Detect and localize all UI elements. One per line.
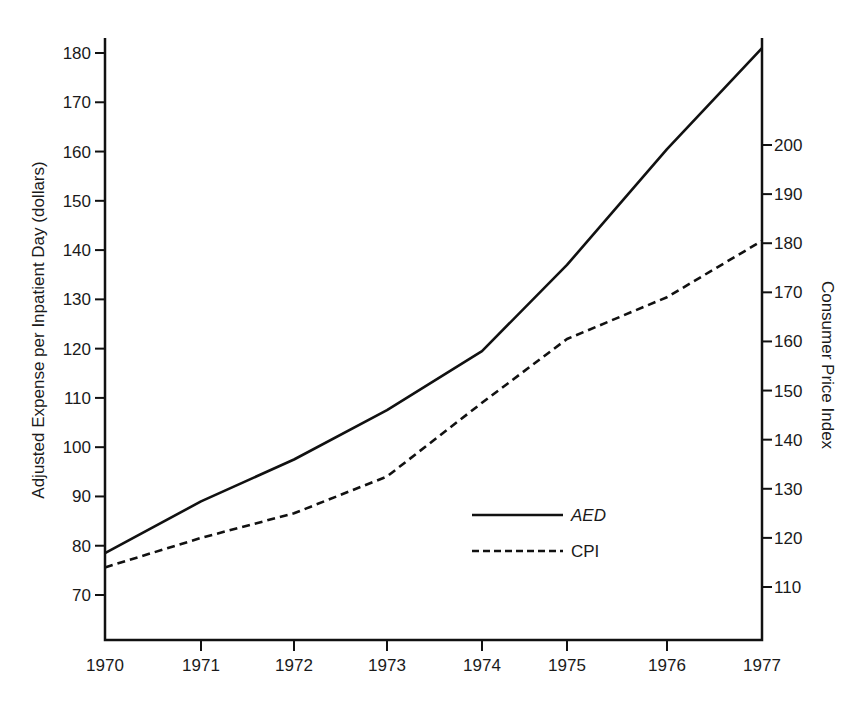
left-tick-label: 140 xyxy=(63,241,91,260)
left-tick-label: 90 xyxy=(72,487,91,506)
left-tick-label: 100 xyxy=(63,438,91,457)
x-tick-label: 1977 xyxy=(743,656,781,675)
x-tick-label: 1974 xyxy=(463,656,501,675)
right-tick-label: 190 xyxy=(774,185,802,204)
left-tick-label: 80 xyxy=(72,537,91,556)
legend-label-cpi: CPI xyxy=(571,542,599,561)
right-tick-label: 120 xyxy=(774,529,802,548)
left-tick-label: 180 xyxy=(63,44,91,63)
line-chart: 7080901001101201301401501601701801101201… xyxy=(0,0,857,701)
y2-axis-label: Consumer Price Index xyxy=(818,281,837,450)
right-tick-label: 180 xyxy=(774,234,802,253)
axes: 7080901001101201301401501601701801101201… xyxy=(63,38,803,675)
right-tick-label: 200 xyxy=(774,136,802,155)
right-tick-label: 170 xyxy=(774,283,802,302)
series-cpi xyxy=(105,241,762,568)
axis-frame xyxy=(105,38,762,640)
x-tick-label: 1970 xyxy=(86,656,124,675)
left-tick-label: 110 xyxy=(64,389,91,408)
left-tick-label: 170 xyxy=(63,93,91,112)
x-tick-label: 1973 xyxy=(368,656,406,675)
x-tick-label: 1972 xyxy=(275,656,313,675)
left-tick-label: 130 xyxy=(63,290,91,309)
series-aed xyxy=(105,48,762,553)
x-tick-label: 1975 xyxy=(548,656,586,675)
right-tick-label: 140 xyxy=(774,431,802,450)
left-tick-label: 150 xyxy=(63,192,91,211)
left-tick-label: 70 xyxy=(72,586,91,605)
right-tick-label: 150 xyxy=(774,382,802,401)
legend: AEDCPI xyxy=(472,506,606,561)
y-axis-label: Adjusted Expense per Inpatient Day (doll… xyxy=(29,161,48,498)
right-tick-label: 130 xyxy=(774,480,802,499)
right-tick-label: 160 xyxy=(774,332,802,351)
series-lines xyxy=(105,48,762,567)
right-tick-label: 110 xyxy=(774,578,801,597)
left-tick-label: 160 xyxy=(63,143,91,162)
left-tick-label: 120 xyxy=(63,340,91,359)
x-tick-label: 1971 xyxy=(182,656,220,675)
legend-label-aed: AED xyxy=(570,506,606,525)
x-tick-label: 1976 xyxy=(648,656,686,675)
